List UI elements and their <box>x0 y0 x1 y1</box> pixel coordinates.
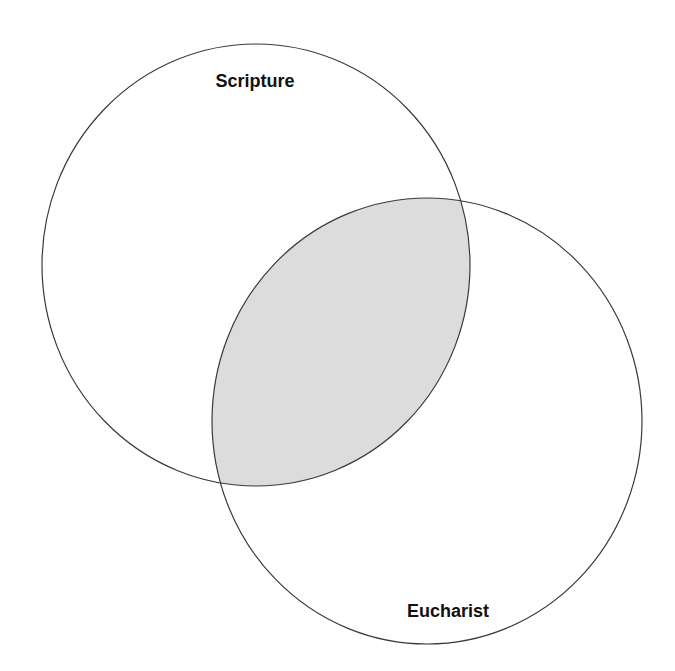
eucharist-set-label: Eucharist <box>407 601 489 621</box>
venn-diagram: Scripture Eucharist <box>0 0 675 671</box>
intersection-region <box>212 198 642 644</box>
scripture-set-label: Scripture <box>215 71 294 91</box>
